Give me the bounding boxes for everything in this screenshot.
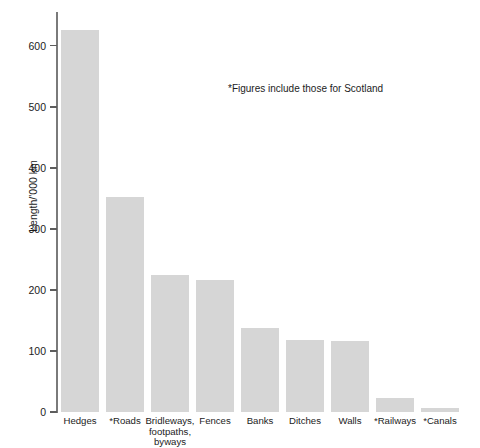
bar	[421, 408, 459, 412]
bar	[241, 328, 279, 412]
bar	[331, 341, 369, 412]
x-axis-label: *Canals	[412, 416, 468, 427]
footnote-annotation: *Figures include those for Scotland	[228, 83, 383, 94]
bar	[286, 340, 324, 412]
plot-area	[0, 0, 480, 448]
bar	[196, 280, 234, 412]
bar	[376, 398, 414, 412]
bar	[151, 275, 189, 412]
bar	[106, 197, 144, 412]
bar-chart: Length of linear landscape features in G…	[0, 0, 480, 448]
bar	[61, 30, 99, 412]
